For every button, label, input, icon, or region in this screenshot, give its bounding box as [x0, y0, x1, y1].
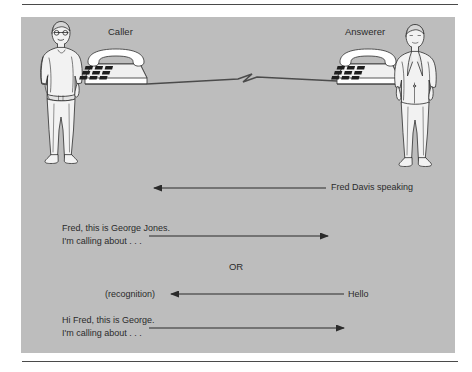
- caller-formal-open-label: Fred, this is George Jones. I'm calling …: [62, 222, 170, 247]
- caller-person-illustration: [41, 22, 83, 164]
- caller-role-label: Caller: [108, 26, 133, 38]
- caller-informal-open-label: Hi Fred, this is George. I'm calling abo…: [62, 314, 155, 339]
- caller-recognition-label: (recognition): [105, 288, 155, 300]
- answerer-role-label: Answerer: [345, 26, 385, 38]
- answerer-person-illustration: [395, 25, 437, 167]
- phone-line-zigzag-icon: [147, 74, 337, 84]
- answerer-hello-label: Hello: [348, 288, 369, 300]
- answerer-greeting-label: Fred Davis speaking: [331, 181, 413, 193]
- alternative-separator-label: OR: [0, 261, 472, 273]
- caller-telephone-illustration: [79, 49, 147, 84]
- answerer-telephone-illustration: [331, 49, 399, 84]
- telephone-conversation-figure: Caller Answerer Fred Davis speaking Fred…: [0, 0, 472, 372]
